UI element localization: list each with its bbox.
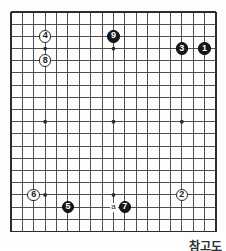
point-marker-a[interactable]: a: [110, 203, 118, 212]
stone-move-number: 1: [202, 44, 207, 53]
figure-caption: 참고도: [189, 237, 222, 251]
board-grid: [8, 9, 219, 235]
stone-move-number: 4: [43, 31, 48, 40]
stone-black-9[interactable]: 9: [107, 30, 120, 43]
stone-black-1[interactable]: 1: [198, 42, 211, 55]
stone-move-number: 2: [179, 190, 184, 199]
stone-move-number: 7: [122, 202, 127, 211]
stone-black-3[interactable]: 3: [176, 42, 189, 55]
stone-move-number: 3: [179, 44, 184, 53]
stone-move-number: 6: [31, 190, 36, 199]
stone-move-number: 5: [65, 202, 70, 211]
stone-move-number: 8: [43, 56, 48, 65]
go-board[interactable]: 123456789a: [8, 9, 219, 235]
stone-white-4[interactable]: 4: [39, 30, 52, 43]
stone-move-number: 9: [111, 31, 116, 40]
